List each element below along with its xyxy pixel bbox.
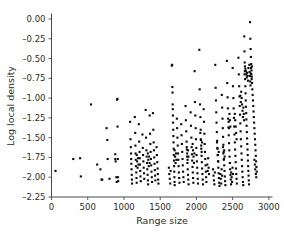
data-point <box>239 114 241 116</box>
data-point <box>253 116 255 118</box>
data-point <box>213 179 215 181</box>
data-point <box>235 132 237 134</box>
data-point <box>253 122 255 124</box>
data-point <box>196 172 198 174</box>
data-point <box>201 167 203 169</box>
y-axis-title: Log local density <box>5 66 16 146</box>
data-point <box>171 64 173 66</box>
data-point <box>172 103 174 105</box>
y-axis-ticks: 0.00–0.25–0.50–0.75–1.00–1.25–1.50–1.75–… <box>22 14 51 202</box>
data-point <box>193 152 195 154</box>
data-point <box>229 174 231 176</box>
data-point <box>194 114 196 116</box>
data-point <box>203 108 205 110</box>
data-point <box>106 127 108 129</box>
data-point <box>226 82 228 84</box>
data-point <box>241 103 243 105</box>
data-point <box>117 126 119 128</box>
data-point <box>199 132 201 134</box>
data-point <box>207 170 209 172</box>
y-tick-label: –1.00 <box>22 93 45 103</box>
data-point <box>249 21 251 23</box>
data-point <box>185 130 187 132</box>
data-point <box>147 159 149 161</box>
data-point <box>108 178 110 180</box>
data-point <box>171 86 173 88</box>
data-point <box>174 156 176 158</box>
data-point <box>187 156 189 158</box>
data-point <box>192 171 194 173</box>
data-point <box>231 176 233 178</box>
data-point <box>149 133 151 135</box>
data-point <box>173 176 175 178</box>
data-point <box>148 156 150 158</box>
data-point <box>157 173 159 175</box>
data-point <box>251 65 253 67</box>
data-point <box>191 166 193 168</box>
data-point <box>250 69 252 71</box>
data-point <box>250 63 252 65</box>
data-point <box>208 167 210 169</box>
data-point <box>79 157 81 159</box>
data-point <box>232 67 234 69</box>
data-point <box>186 152 188 154</box>
data-point <box>239 105 241 107</box>
data-point <box>244 61 246 63</box>
data-point <box>245 112 247 114</box>
data-point <box>186 146 188 148</box>
data-point <box>232 85 234 87</box>
data-point <box>200 145 202 147</box>
data-point <box>134 145 136 147</box>
data-point <box>232 97 234 99</box>
data-point <box>247 67 249 69</box>
data-point <box>186 162 188 164</box>
data-point <box>218 177 220 179</box>
data-point <box>234 113 236 115</box>
data-point <box>135 177 137 179</box>
data-point <box>156 146 158 148</box>
data-point <box>199 103 201 105</box>
data-point <box>139 170 141 172</box>
data-point <box>143 172 145 174</box>
data-point <box>150 171 152 173</box>
x-axis-title: Range size <box>136 215 188 226</box>
data-point <box>168 173 170 175</box>
data-point <box>185 105 187 107</box>
data-point <box>176 137 178 139</box>
data-point <box>54 170 56 172</box>
data-point <box>217 160 219 162</box>
data-point <box>242 184 244 186</box>
data-point <box>170 170 172 172</box>
data-point <box>251 88 253 90</box>
data-point <box>243 73 245 75</box>
data-point <box>241 159 243 161</box>
data-point <box>130 158 132 160</box>
data-point <box>190 125 192 127</box>
data-point <box>207 157 209 159</box>
data-point <box>175 159 177 161</box>
data-point <box>255 166 257 168</box>
data-point <box>223 164 225 166</box>
data-point <box>246 148 248 150</box>
data-point <box>224 180 226 182</box>
data-points-layer <box>54 21 257 187</box>
data-point <box>80 175 82 177</box>
data-point <box>183 181 185 183</box>
data-point <box>152 112 154 114</box>
data-point <box>248 183 250 185</box>
data-point <box>246 137 248 139</box>
data-point <box>201 141 203 143</box>
data-point <box>251 78 253 80</box>
data-point <box>227 96 229 98</box>
data-point <box>182 164 184 166</box>
data-point <box>156 161 158 163</box>
x-tick-label: 500 <box>80 202 96 212</box>
data-point <box>200 138 202 140</box>
data-point <box>235 173 237 175</box>
data-point <box>137 157 139 159</box>
data-point <box>138 151 140 153</box>
data-point <box>131 183 133 185</box>
data-point <box>238 73 240 75</box>
data-point <box>190 111 192 113</box>
data-point <box>196 160 198 162</box>
